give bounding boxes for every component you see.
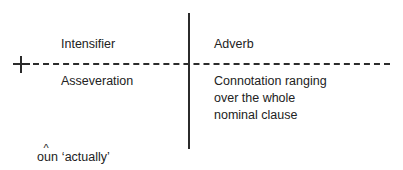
quadrant-label-lower-right-line-1: Connotation ranging bbox=[214, 73, 327, 90]
horizontal-dashed-axis-line bbox=[33, 63, 390, 65]
gloss-annotation: oun^‘actually’ bbox=[37, 150, 110, 165]
plus-sign-marker bbox=[13, 56, 30, 73]
quadrant-label-lower-left: Asseveration bbox=[61, 73, 133, 90]
quadrant-label-lower-right-line-3: nominal clause bbox=[214, 107, 327, 124]
gloss-translation: ‘actually’ bbox=[62, 150, 110, 164]
gloss-headword: oun^ bbox=[37, 150, 58, 164]
quadrant-label-lower-right-line-2: over the whole bbox=[214, 90, 327, 107]
quadrant-label-lower-right: Connotation ranging over the whole nomin… bbox=[214, 73, 327, 124]
circumflex-diacritic-icon: ^ bbox=[44, 143, 49, 154]
vertical-axis-line bbox=[188, 13, 190, 149]
quadrant-label-upper-left: Intensifier bbox=[61, 36, 115, 53]
semantic-feature-diagram: Intensifier Adverb Asseveration Connotat… bbox=[0, 0, 403, 170]
quadrant-label-upper-right: Adverb bbox=[214, 36, 254, 53]
